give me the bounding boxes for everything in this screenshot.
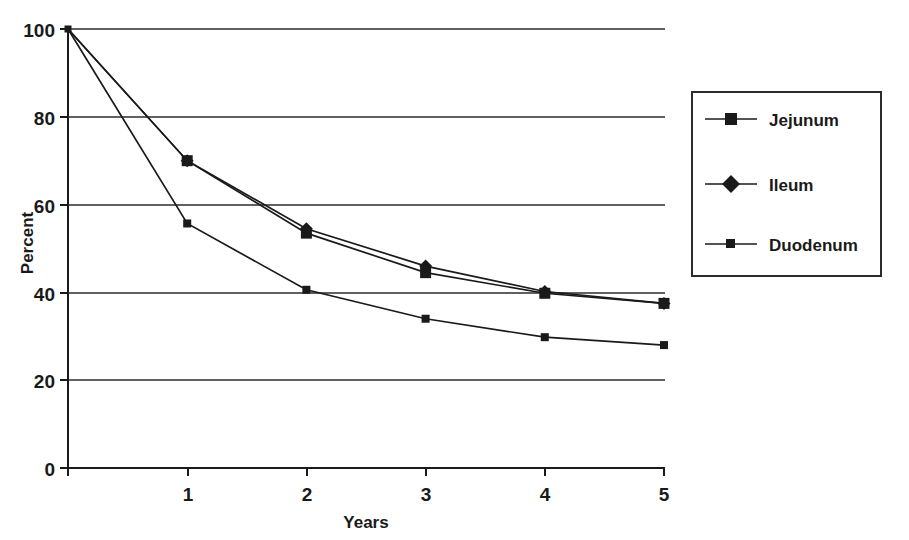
small-square-marker-icon <box>726 239 735 248</box>
y-tick-label-60: 60 <box>34 196 55 217</box>
origin-marker-icon <box>65 26 72 33</box>
x-tick-label-5: 5 <box>659 484 670 505</box>
square-marker-icon <box>725 113 737 125</box>
y-tick-label-20: 20 <box>34 371 55 392</box>
y-axis-title: Percent <box>18 211 37 274</box>
y-tick-label-40: 40 <box>34 284 55 305</box>
small-square-marker-icon <box>660 341 668 349</box>
x-tick-label-2: 2 <box>302 484 313 505</box>
line-chart: 100 80 60 40 20 0 1 2 3 4 5 Percent Year… <box>0 0 909 540</box>
legend-label-ileum: Ileum <box>769 176 813 195</box>
y-tick-label-80: 80 <box>34 108 55 129</box>
small-square-marker-icon <box>183 219 191 227</box>
y-tick-label-0: 0 <box>44 459 55 480</box>
x-tick-label-3: 3 <box>421 484 432 505</box>
legend-label-duodenum: Duodenum <box>769 236 858 255</box>
x-axis-title: Years <box>343 513 388 532</box>
legend: Jejunum Ileum Duodenum <box>692 92 881 276</box>
y-tick-label-100: 100 <box>23 20 55 41</box>
small-square-marker-icon <box>302 286 310 294</box>
x-tick-label-4: 4 <box>540 484 551 505</box>
small-square-marker-icon <box>541 333 549 341</box>
legend-label-jejunum: Jejunum <box>769 111 839 130</box>
x-tick-label-1: 1 <box>183 484 194 505</box>
small-square-marker-icon <box>422 315 430 323</box>
